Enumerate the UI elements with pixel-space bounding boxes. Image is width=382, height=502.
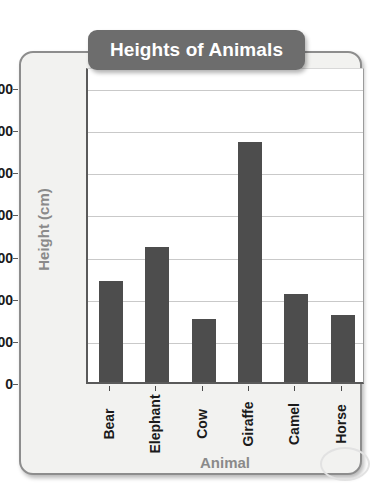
- x-axis-tick-labels: BearElephantCowGiraffeCamelHorse: [86, 386, 364, 450]
- y-axis-tick-mark: [13, 342, 18, 343]
- y-axis-tick-label: 600: [0, 123, 13, 139]
- x-axis-tick-mark: [341, 386, 342, 391]
- x-axis-title: Animal: [86, 454, 364, 471]
- y-axis-tick-mark: [13, 258, 18, 259]
- y-axis-tick-label: 500: [0, 165, 13, 181]
- x-axis-tick-mark: [248, 386, 249, 391]
- y-axis-tick-mark: [13, 215, 18, 216]
- chart-title-banner: Heights of Animals: [88, 30, 305, 70]
- x-axis-tick-label: Cow: [194, 409, 210, 439]
- y-axis-tick-label: 0: [5, 376, 13, 392]
- x-axis-tick-label: Giraffe: [240, 401, 256, 446]
- bar-slot: [227, 69, 273, 382]
- bar-elephant: [145, 247, 169, 382]
- bar-slot: [320, 69, 366, 382]
- x-axis-tick-label: Elephant: [147, 394, 163, 453]
- x-tick-slot: Camel: [271, 386, 317, 450]
- chart-title-text: Heights of Animals: [110, 39, 283, 61]
- y-axis-tick-label: 100: [0, 334, 13, 350]
- y-axis-tick-label: 400: [0, 207, 13, 223]
- x-tick-slot: Horse: [318, 386, 364, 450]
- bar-bear: [99, 281, 123, 382]
- x-tick-slot: Elephant: [132, 386, 178, 450]
- x-axis-tick-label: Bear: [101, 408, 117, 439]
- bar-slot: [134, 69, 180, 382]
- bars-layer: [88, 69, 363, 382]
- y-axis-tick-label: 700: [0, 81, 13, 97]
- bar-giraffe: [238, 142, 262, 382]
- page-bleed-through-text: [33, 81, 37, 96]
- chart-card: 0100200300400500600700 Height (cm) BearE…: [19, 51, 362, 475]
- bar-cow: [192, 319, 216, 382]
- x-axis-tick-label: Camel: [286, 403, 302, 445]
- y-axis-tick-mark: [13, 300, 18, 301]
- y-axis-title: Height (cm): [35, 165, 52, 295]
- y-axis-tick-mark: [13, 131, 18, 132]
- plot-area: [86, 68, 364, 384]
- y-axis-tick-labels: 0100200300400500600700: [0, 68, 17, 384]
- y-axis-tick-mark: [13, 173, 18, 174]
- x-axis-tick-mark: [109, 386, 110, 391]
- bar-slot: [88, 69, 134, 382]
- x-tick-slot: Giraffe: [225, 386, 271, 450]
- x-tick-slot: Cow: [179, 386, 225, 450]
- bar-horse: [331, 315, 355, 382]
- x-axis-tick-label: Horse: [333, 404, 349, 444]
- x-tick-slot: Bear: [86, 386, 132, 450]
- y-axis-tick-label: 200: [0, 292, 13, 308]
- bar-camel: [284, 294, 308, 382]
- y-axis-tick-mark: [13, 89, 18, 90]
- bar-slot: [181, 69, 227, 382]
- y-axis-tick-label: 300: [0, 250, 13, 266]
- y-axis-tick-mark: [13, 384, 18, 385]
- x-axis-tick-mark: [155, 386, 156, 391]
- bar-slot: [273, 69, 319, 382]
- x-axis-tick-mark: [294, 386, 295, 391]
- x-axis-tick-mark: [202, 386, 203, 391]
